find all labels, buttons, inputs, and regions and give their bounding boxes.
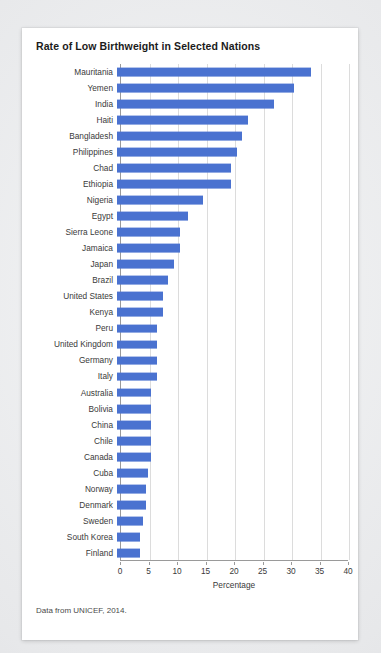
bar-track: [117, 497, 348, 513]
category-label: United States: [23, 292, 117, 300]
category-label: Jamaica: [23, 244, 117, 252]
category-label: Canada: [23, 453, 117, 461]
chart-row: Brazil: [23, 272, 348, 288]
source-note: Data from UNICEF, 2014.: [36, 606, 127, 615]
category-label: Norway: [23, 485, 117, 493]
chart-row: Egypt: [23, 208, 348, 224]
chart-row: South Korea: [23, 529, 348, 545]
category-label: Chile: [23, 437, 117, 445]
bar: [117, 404, 151, 413]
bar-track: [117, 337, 348, 353]
category-label: Bolivia: [23, 405, 117, 413]
bar: [117, 100, 274, 109]
bar: [117, 484, 146, 493]
x-tick-label: 20: [229, 566, 238, 576]
bar-track: [117, 433, 348, 449]
bar: [117, 260, 174, 269]
chart-plot-area: MauritaniaYemenIndiaHaitiBangladeshPhili…: [120, 64, 348, 561]
bar: [117, 276, 168, 285]
bar-track: [117, 353, 348, 369]
chart-row: Jamaica: [23, 240, 348, 256]
chart-row: Chad: [23, 160, 348, 176]
category-label: Peru: [23, 324, 117, 332]
bar-track: [117, 417, 348, 433]
gridline: [349, 64, 350, 560]
bar-track: [117, 288, 348, 304]
category-label: Bangladesh: [23, 132, 117, 140]
category-label: India: [23, 100, 117, 108]
category-label: Egypt: [23, 212, 117, 220]
chart-bar-rows: MauritaniaYemenIndiaHaitiBangladeshPhili…: [23, 64, 348, 560]
x-axis-label: Percentage: [120, 580, 348, 590]
bar: [117, 356, 157, 365]
bar: [117, 372, 157, 381]
bar-track: [117, 304, 348, 320]
bar-track: [117, 112, 348, 128]
x-tick-label: 30: [286, 566, 295, 576]
bar-track: [117, 224, 348, 240]
bar-track: [117, 240, 348, 256]
category-label: United Kingdom: [23, 340, 117, 348]
category-label: Chad: [23, 164, 117, 172]
chart-row: Yemen: [23, 80, 348, 96]
bar-track: [117, 385, 348, 401]
chart-row: Philippines: [23, 144, 348, 160]
bar: [117, 340, 157, 349]
chart-row: Bangladesh: [23, 128, 348, 144]
x-tick-mark: [234, 562, 235, 565]
bar: [117, 228, 180, 237]
bar: [117, 84, 294, 93]
chart-row: China: [23, 417, 348, 433]
bar: [117, 148, 237, 157]
bar-track: [117, 513, 348, 529]
bar: [117, 132, 242, 141]
bar-track: [117, 192, 348, 208]
chart-row: Peru: [23, 321, 348, 337]
bar: [117, 116, 248, 125]
chart-row: Canada: [23, 449, 348, 465]
chart-row: Sierra Leone: [23, 224, 348, 240]
bar: [117, 500, 146, 509]
bar: [117, 68, 311, 77]
bar: [117, 164, 231, 173]
category-label: Sweden: [23, 517, 117, 525]
chart-row: United Kingdom: [23, 337, 348, 353]
chart-row: India: [23, 96, 348, 112]
chart-row: Haiti: [23, 112, 348, 128]
x-tick-label: 0: [118, 566, 123, 576]
bar: [117, 468, 148, 477]
x-tick-mark: [291, 562, 292, 565]
chart-row: Bolivia: [23, 401, 348, 417]
chart-row: United States: [23, 288, 348, 304]
bar-track: [117, 128, 348, 144]
category-label: Germany: [23, 356, 117, 364]
bar-track: [117, 465, 348, 481]
x-tick-mark: [149, 562, 150, 565]
category-label: South Korea: [23, 533, 117, 541]
chart-row: Norway: [23, 481, 348, 497]
page-background: Rate of Low Birthweight in Selected Nati…: [0, 0, 381, 653]
chart-row: Italy: [23, 369, 348, 385]
chart-row: Nigeria: [23, 192, 348, 208]
category-label: Japan: [23, 260, 117, 268]
bar: [117, 452, 151, 461]
bar-track: [117, 80, 348, 96]
chart-row: Denmark: [23, 497, 348, 513]
category-label: Philippines: [23, 148, 117, 156]
bar-track: [117, 369, 348, 385]
category-label: Haiti: [23, 116, 117, 124]
bar: [117, 308, 163, 317]
bar-track: [117, 160, 348, 176]
bar-track: [117, 481, 348, 497]
bar-track: [117, 96, 348, 112]
chart-row: Germany: [23, 353, 348, 369]
category-label: Yemen: [23, 84, 117, 92]
category-label: Mauritania: [23, 68, 117, 76]
chart-row: Cuba: [23, 465, 348, 481]
bar-track: [117, 208, 348, 224]
bar: [117, 196, 203, 205]
bar: [117, 533, 140, 542]
x-tick-mark: [263, 562, 264, 565]
x-tick-label: 5: [146, 566, 151, 576]
bar: [117, 180, 231, 189]
